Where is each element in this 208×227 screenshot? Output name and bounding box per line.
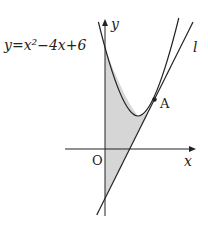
tangent-label: l — [193, 39, 197, 55]
x-axis-arrow-icon — [189, 146, 196, 152]
diagram: y=x²−4x+6 y x O l A — [0, 0, 208, 227]
x-axis-label: x — [184, 153, 192, 169]
y-axis-label: y — [110, 16, 120, 32]
point-a-label: A — [159, 96, 170, 111]
origin-label: O — [92, 153, 103, 168]
point-a — [152, 97, 156, 101]
y-axis-arrow-icon — [102, 19, 108, 26]
equation-label: y=x²−4x+6 — [3, 37, 86, 53]
